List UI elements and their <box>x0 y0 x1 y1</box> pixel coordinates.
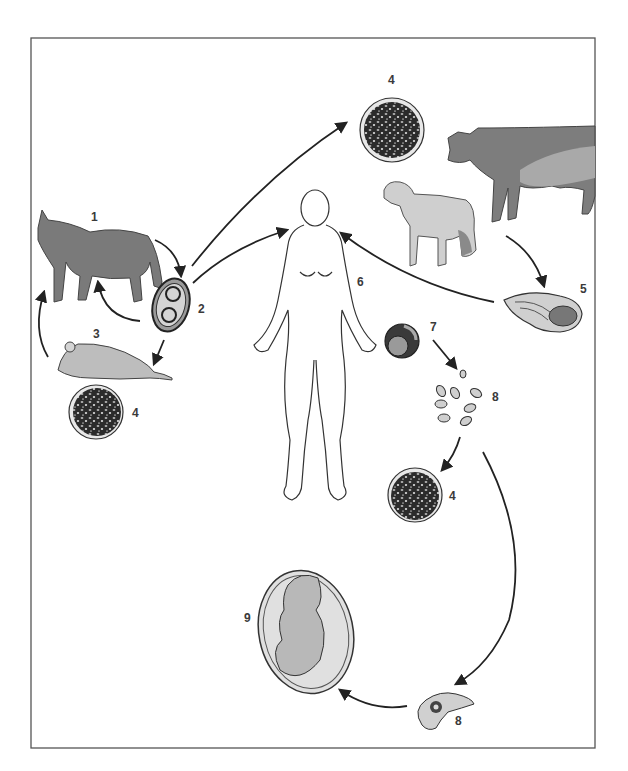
page-edge-marks <box>0 140 6 390</box>
arrow-oocyst-to-mouse <box>154 340 164 364</box>
arrow-oocyst-to-human <box>193 230 287 283</box>
arrow-tachyzoites-to-tissue-cyst <box>442 437 460 470</box>
label-9: 9 <box>244 611 251 625</box>
human-figure <box>254 190 376 500</box>
arrow-mouse-to-cat <box>39 292 48 357</box>
label-4-top: 4 <box>388 73 395 87</box>
arrow-oocyst-to-tissue-cyst <box>192 123 346 266</box>
arrow-single-to-fetus <box>340 690 407 707</box>
label-2: 2 <box>198 302 205 316</box>
label-8-single: 8 <box>455 714 462 728</box>
arrow-tachyzoites-to-single <box>456 452 515 684</box>
arrow-cyst-to-tachyzoites <box>433 340 456 368</box>
tachyzoites-icon <box>435 370 484 427</box>
tissue-cyst-icon <box>69 385 123 439</box>
tachyzoite-icon <box>418 693 474 730</box>
label-8-group: 8 <box>492 390 499 404</box>
label-6: 6 <box>357 275 364 289</box>
tissue-cyst-icon <box>360 98 424 162</box>
label-4-mouse: 4 <box>132 406 139 420</box>
arrow-cow-to-meat <box>506 236 544 286</box>
label-3: 3 <box>93 327 100 341</box>
label-1: 1 <box>91 210 98 224</box>
sheep-illustration <box>384 182 476 266</box>
tissue-cyst-icon <box>388 468 442 522</box>
ingested-cyst-icon <box>385 324 419 358</box>
fetus-illustration <box>247 562 365 703</box>
meat-illustration <box>504 293 582 332</box>
label-7: 7 <box>430 320 437 334</box>
label-4-human: 4 <box>449 489 456 503</box>
life-cycle-diagram: 1 2 3 4 4 5 <box>0 0 628 771</box>
label-5: 5 <box>580 282 587 296</box>
